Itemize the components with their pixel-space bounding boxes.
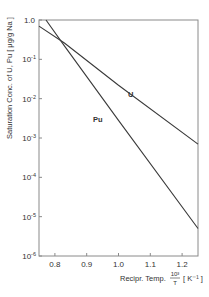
x-axis-title: Recipr. Temp. 10³ T [ K⁻¹ ]	[120, 271, 203, 286]
y-tick-label: 10-5	[22, 212, 36, 222]
x-tick-label: 0.9	[81, 260, 93, 269]
x-tick-label: 1.1	[145, 260, 157, 269]
series-label-u: U	[128, 90, 133, 99]
x-tick-label: 1.0	[113, 260, 125, 269]
y-tick-label: 10-4	[22, 172, 36, 182]
y-tick-label: 10-3	[22, 133, 36, 143]
y-tick-label: 1.0	[24, 16, 36, 25]
y-tick-label: 10-2	[22, 94, 36, 104]
plot-frame	[39, 20, 198, 256]
y-axis-title: Saturation Conc. of U, Pu [ μg/g Na ]	[5, 17, 14, 139]
series-label-pu: Pu	[93, 115, 103, 124]
svg-text:10³: 10³	[171, 271, 180, 277]
x-tick-label: 0.8	[49, 260, 61, 269]
x-axis-ticks: 0.80.91.01.11.2	[49, 253, 188, 269]
svg-text:T: T	[173, 280, 177, 286]
y-tick-label: 10-1	[22, 54, 36, 64]
y-tick-label: 10-6	[22, 251, 36, 261]
svg-text:Recipr. Temp.: Recipr. Temp.	[120, 274, 166, 283]
series-labels: UPu	[93, 90, 133, 124]
series-line-pu	[46, 20, 198, 229]
series-lines	[39, 20, 198, 229]
x-tick-label: 1.2	[177, 260, 189, 269]
svg-text:[ K⁻¹ ]: [ K⁻¹ ]	[183, 274, 203, 283]
chart: 1.010-110-210-310-410-510-6 0.80.91.01.1…	[0, 0, 209, 297]
